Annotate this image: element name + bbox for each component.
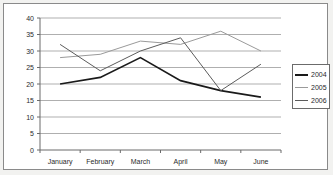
legend-item-2004[interactable]: 2004 bbox=[295, 68, 327, 81]
y-tick-label: 10 bbox=[26, 114, 34, 121]
legend-label-2006: 2006 bbox=[311, 97, 327, 104]
y-tick-label: 15 bbox=[26, 97, 34, 104]
y-tick-label: 40 bbox=[26, 15, 34, 22]
x-tick-label: April bbox=[174, 158, 188, 166]
series-line-2006 bbox=[60, 38, 261, 91]
x-tick-label: January bbox=[48, 158, 73, 166]
y-axis-labels-group: 0510152025303540 bbox=[26, 15, 34, 154]
chart-plot-area: 0510152025303540 JanuaryFebruaryMarchApr… bbox=[4, 4, 329, 171]
y-tick-label: 30 bbox=[26, 48, 34, 55]
legend-swatch-2006-icon bbox=[295, 100, 308, 101]
y-tick-label: 5 bbox=[30, 130, 34, 137]
x-axis-labels-group: JanuaryFebruaryMarchAprilMayJune bbox=[48, 158, 269, 166]
legend-label-2005: 2005 bbox=[311, 84, 327, 91]
x-tick-label: June bbox=[253, 158, 268, 165]
line-chart-svg: 0510152025303540 JanuaryFebruaryMarchApr… bbox=[4, 4, 329, 171]
legend-swatch-2005-icon bbox=[295, 87, 308, 88]
x-tick-label: February bbox=[86, 158, 115, 166]
x-tick-label: March bbox=[131, 158, 151, 165]
y-tick-label: 0 bbox=[30, 147, 34, 154]
x-tick-label: May bbox=[214, 158, 228, 166]
y-tick-label: 20 bbox=[26, 81, 34, 88]
legend-swatch-2004-icon bbox=[295, 74, 308, 76]
legend-item-2005[interactable]: 2005 bbox=[295, 81, 327, 94]
y-tick-label: 25 bbox=[26, 64, 34, 71]
y-tick-label: 35 bbox=[26, 31, 34, 38]
gridlines-group bbox=[40, 18, 281, 134]
series-lines-group bbox=[60, 31, 261, 97]
series-line-2004 bbox=[60, 58, 261, 98]
legend-label-2004: 2004 bbox=[311, 71, 327, 78]
chart-figure: 0510152025303540 JanuaryFebruaryMarchApr… bbox=[3, 3, 328, 170]
chart-legend: 2004 2005 2006 bbox=[292, 64, 330, 109]
legend-item-2006[interactable]: 2006 bbox=[295, 94, 327, 107]
